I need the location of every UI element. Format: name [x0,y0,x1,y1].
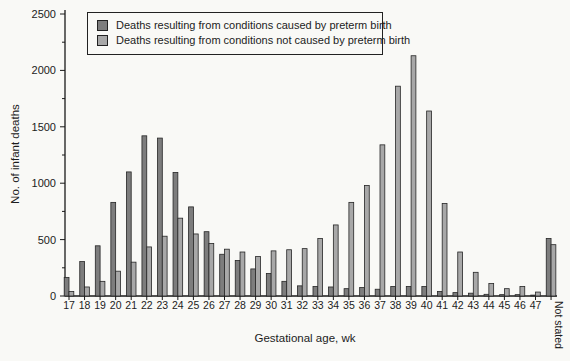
bar-not-caused-age-24 [178,218,183,296]
x-tick-label: 32 [296,299,308,311]
bar-caused-age-Not stated [546,238,551,296]
x-tick-label: 39 [405,299,417,311]
y-tick-label: 1000 [32,177,56,189]
x-tick-label: 45 [499,299,511,311]
bar-caused-age-26 [204,232,209,296]
x-tick-label: 31 [281,299,293,311]
bar-not-caused-age-32 [302,249,307,296]
bar-not-caused-age-19 [100,281,105,296]
bar-not-caused-age-40 [427,111,432,296]
x-tick-label: 29 [250,299,262,311]
bar-caused-age-36 [360,288,365,296]
bar-caused-age-30 [266,273,271,296]
y-tick-label: 2000 [32,64,56,76]
y-tick-label: 500 [38,234,56,246]
bar-caused-age-35 [344,289,349,296]
bar-not-caused-age-29 [256,257,261,296]
bar-caused-age-29 [251,269,256,296]
bar-caused-age-19 [95,246,100,296]
bar-not-caused-age-23 [162,236,167,296]
bar-not-caused-age-39 [411,56,416,296]
bar-not-caused-age-28 [240,252,245,296]
bar-caused-age-28 [235,260,240,296]
bar-caused-age-31 [282,281,287,296]
x-tick-label: 24 [172,299,184,311]
x-tick-label: 36 [359,299,371,311]
x-tick-label: 28 [234,299,246,311]
bar-not-caused-age-37 [380,145,385,296]
x-tick-label: 27 [219,299,231,311]
bar-not-caused-age-44 [489,284,494,296]
x-tick-label: 46 [514,299,526,311]
bar-caused-age-24 [173,172,178,296]
x-tick-label: 47 [530,299,542,311]
bar-caused-age-47 [531,295,536,296]
bar-not-caused-age-27 [225,249,230,296]
x-tick-label: 22 [141,299,153,311]
bar-not-caused-age-17 [69,291,74,296]
x-tick-label: 18 [79,299,91,311]
y-tick-label: 1500 [32,121,56,133]
bar-caused-age-42 [453,293,458,296]
y-tick-label: 0 [50,290,56,302]
bar-not-caused-age-46 [520,286,525,296]
legend-item-caused-by-preterm: Deaths resulting from conditions caused … [97,19,374,32]
bar-caused-age-44 [484,294,489,296]
legend-swatch-not-caused-by-preterm [97,35,108,46]
legend-swatch-caused-by-preterm [97,20,108,31]
x-tick-label: 19 [94,299,106,311]
bar-caused-age-43 [469,293,474,296]
legend-item-not-caused-by-preterm: Deaths resulting from conditions not cau… [97,34,374,47]
bar-caused-age-46 [515,295,520,296]
bar-caused-age-39 [406,286,411,296]
legend-label-caused-by-preterm: Deaths resulting from conditions caused … [116,19,392,32]
bar-caused-age-27 [220,254,225,296]
bar-not-caused-age-30 [271,251,276,296]
bar-caused-age-45 [500,295,505,296]
bar-not-caused-age-41 [442,204,447,296]
chart-legend: Deaths resulting from conditions caused … [87,12,383,55]
bar-caused-age-40 [422,286,427,296]
bar-not-caused-age-35 [349,202,354,296]
bar-not-caused-age-21 [131,262,136,296]
bar-caused-age-38 [391,286,396,296]
bar-not-caused-age-42 [458,252,463,296]
x-tick-label: 35 [343,299,355,311]
bar-caused-age-23 [158,138,163,296]
x-tick-label-not-stated: Not stated [553,301,565,349]
bar-not-caused-age-Not stated [551,245,556,296]
x-tick-label: 26 [203,299,215,311]
bar-not-caused-age-38 [396,86,401,296]
bar-caused-age-20 [111,202,116,296]
x-tick-label: 37 [374,299,386,311]
infant-deaths-bar-chart-figure: 0500100015002000250017181920212223242526… [0,0,570,361]
x-tick-label: 40 [421,299,433,311]
x-tick-label: 34 [328,299,340,311]
x-tick-label: 30 [265,299,277,311]
bar-not-caused-age-33 [318,238,323,296]
x-tick-label: 17 [63,299,75,311]
bar-not-caused-age-20 [116,271,121,296]
bar-not-caused-age-18 [85,287,90,296]
bar-not-caused-age-34 [333,225,338,296]
x-tick-label: 41 [436,299,448,311]
bar-caused-age-21 [126,172,131,296]
bar-not-caused-age-43 [473,272,478,296]
bar-caused-age-41 [437,291,442,296]
bar-not-caused-age-26 [209,244,214,296]
x-tick-label: 21 [125,299,137,311]
x-tick-label: 43 [467,299,479,311]
bar-caused-age-17 [64,277,69,296]
bar-not-caused-age-47 [536,292,541,296]
x-tick-label: 23 [156,299,168,311]
bar-caused-age-18 [80,262,85,296]
y-tick-label: 2500 [32,8,56,20]
legend-label-not-caused-by-preterm: Deaths resulting from conditions not cau… [116,34,410,47]
x-tick-label: 20 [110,299,122,311]
bar-not-caused-age-31 [287,250,292,296]
bar-caused-age-25 [189,207,194,296]
bar-not-caused-age-22 [147,247,152,296]
bar-not-caused-age-45 [504,289,509,296]
bar-not-caused-age-36 [364,185,369,296]
y-axis-title: No. of infant deaths [9,79,21,229]
